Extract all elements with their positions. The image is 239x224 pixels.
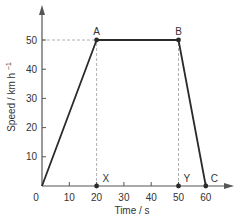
tick-marks [42,40,206,186]
speed-time-chart: 0102030405060 1020304050 ABCXY Time / s … [0,0,239,224]
dashed-guides [42,40,179,186]
x-axis-arrow-icon [224,183,234,189]
x-tick-label: 0 [33,192,39,203]
x-tick-label: 10 [64,192,76,203]
y-axis-title-main: Speed / km h [6,70,17,132]
point-c-marker [203,184,208,189]
y-tick-labels: 1020304050 [26,35,38,163]
point-labels: ABCXY [93,26,218,184]
y-tick-label: 50 [26,35,38,46]
axes [39,5,234,189]
point-a-marker [94,38,99,43]
y-tick-label: 20 [26,122,38,133]
y-tick-label: 40 [26,64,38,75]
point-b-marker [176,38,181,43]
x-tick-label: 50 [173,192,185,203]
point-c-label: C [211,173,218,184]
point-b-label: B [175,26,182,37]
y-axis-title-exponent: −1 [5,62,12,70]
y-tick-label: 10 [26,151,38,162]
x-tick-label: 20 [91,192,103,203]
y-axis-arrow-icon [39,5,45,15]
data-points [94,38,208,189]
x-tick-label: 30 [118,192,130,203]
y-axis-title: Speed / km h −1 [5,62,17,132]
speed-line [42,40,206,186]
point-a-label: A [93,26,100,37]
point-y-marker [176,184,181,189]
point-x-label: X [103,173,110,184]
x-axis-title: Time / s [114,205,149,216]
x-tick-label: 40 [146,192,158,203]
x-tick-label: 60 [200,192,212,203]
point-x-marker [94,184,99,189]
y-tick-label: 30 [26,93,38,104]
x-tick-labels: 0102030405060 [33,192,212,203]
point-y-label: Y [184,173,191,184]
